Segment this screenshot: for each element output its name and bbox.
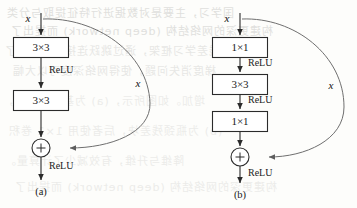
- block-b-skip-label: x: [328, 79, 334, 91]
- block-a-caption: (a): [35, 186, 47, 198]
- block-a-skip-label: x: [135, 77, 141, 89]
- block-b-group: x 1×1 ReLU 3×3 ReLU 1×1 ReLU: [213, 12, 345, 202]
- block-b-caption: (b): [234, 189, 247, 201]
- block-a-input-label: x: [25, 12, 31, 24]
- block-b-conv2-label: 3×3: [231, 78, 249, 90]
- block-a-conv2-label: 3×3: [32, 94, 50, 106]
- block-a-group: x 3×3 ReLU 3×3 ReLU x (a): [14, 12, 151, 199]
- block-a-relu-out-label: ReLU: [49, 160, 74, 171]
- block-b-relu1-label: ReLU: [248, 57, 273, 68]
- block-b-relu-out-label: ReLU: [248, 167, 273, 178]
- block-b-conv3-label: 1×1: [231, 115, 248, 127]
- figure-page: 国学习，主要是对数据进行特征提取与分类 构建更深的网络结构 (deep netw…: [0, 0, 357, 208]
- block-b-input-label: x: [224, 12, 230, 24]
- residual-block-diagram: x 3×3 ReLU 3×3 ReLU x (a): [0, 0, 357, 208]
- block-b-relu2-label: ReLU: [248, 94, 273, 105]
- block-b-conv1-label: 1×1: [231, 41, 248, 53]
- block-a-conv1-label: 3×3: [32, 41, 50, 53]
- block-a-relu1-label: ReLU: [49, 64, 74, 75]
